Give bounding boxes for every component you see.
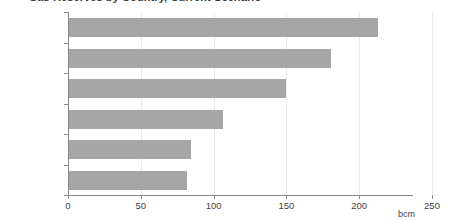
bar-turkmenistan[interactable]: [69, 140, 191, 159]
y-axis-tick: [64, 104, 68, 105]
bar-row[interactable]: China: [69, 18, 378, 37]
x-axis-line: [68, 195, 413, 196]
x-axis-label-200: 200: [329, 200, 389, 211]
bar-china[interactable]: [69, 18, 378, 37]
gridline-100: [214, 12, 215, 195]
x-axis-unit-label: bcm: [398, 209, 415, 219]
x-axis-label-0: 0: [38, 200, 98, 211]
x-axis-tick: [68, 195, 69, 199]
bar-russia[interactable]: [69, 49, 331, 68]
x-axis-tick: [286, 195, 287, 199]
x-axis-tick: [432, 195, 433, 199]
bar-row[interactable]: Iraq: [69, 171, 187, 190]
bar-iraq[interactable]: [69, 171, 187, 190]
bar-row[interactable]: Turkmenistan: [69, 140, 191, 159]
gridline-200: [359, 12, 360, 195]
x-axis-tick: [141, 195, 142, 199]
bar-chart-figure: Gas Reserves by Country, Current Scenari…: [0, 0, 450, 220]
y-axis-tick: [64, 134, 68, 135]
gridline-150: [286, 12, 287, 195]
gridline-50: [141, 12, 142, 195]
chart-title: Gas Reserves by Country, Current Scenari…: [0, 0, 290, 3]
bar-row[interactable]: Russia: [69, 49, 331, 68]
x-axis-label-50: 50: [111, 200, 171, 211]
bar-united-states[interactable]: [69, 79, 286, 98]
x-axis-label-150: 150: [256, 200, 316, 211]
y-axis-tick: [64, 165, 68, 166]
bar-australia[interactable]: [69, 110, 223, 129]
bar-row[interactable]: Australia: [69, 110, 223, 129]
plot-area: China Russia United States Australia Tur…: [68, 12, 432, 195]
x-axis-tick: [214, 195, 215, 199]
bar-row[interactable]: United States: [69, 79, 286, 98]
y-axis-line: [68, 12, 69, 195]
y-axis-tick: [64, 73, 68, 74]
gridline-250: [432, 12, 433, 195]
x-axis-label-100: 100: [184, 200, 244, 211]
x-axis-tick: [359, 195, 360, 199]
y-axis-tick: [64, 43, 68, 44]
y-axis-tick: [64, 12, 68, 13]
